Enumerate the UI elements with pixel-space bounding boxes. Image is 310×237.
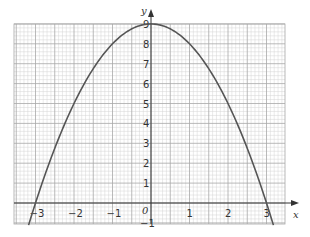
y-tick-label: 4 xyxy=(143,118,149,129)
y-tick-label: 1 xyxy=(143,178,149,189)
x-tick-label: 0 xyxy=(142,205,149,216)
y-tick-label: 3 xyxy=(143,138,149,149)
y-axis-label: y xyxy=(140,5,147,16)
x-tick-label: 1 xyxy=(187,208,193,219)
x-tick-label: −2 xyxy=(68,208,83,219)
parabola-chart: x y −3−2−10123−1123456789 xyxy=(0,0,310,237)
x-tick-label: 2 xyxy=(225,208,231,219)
x-axis-label: x xyxy=(293,209,299,220)
y-tick-label: 5 xyxy=(143,99,149,110)
x-axis-arrow-icon xyxy=(291,200,299,206)
y-tick-label: 2 xyxy=(143,158,149,169)
y-axis-arrow-icon xyxy=(148,9,154,17)
y-tick-label: −1 xyxy=(140,218,155,229)
grid-major xyxy=(14,24,285,224)
y-tick-label: 6 xyxy=(143,79,149,90)
y-tick-label: 7 xyxy=(143,59,149,70)
x-tick-label: −1 xyxy=(107,208,122,219)
y-tick-label: 8 xyxy=(143,39,149,50)
